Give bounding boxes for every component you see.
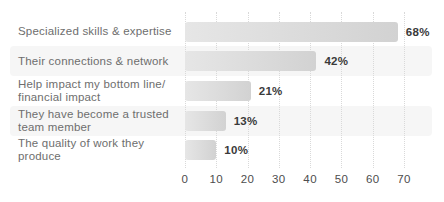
x-axis-tick-label: 10 [201,173,231,185]
value-label: 42% [324,51,348,71]
x-axis-tick-label: 30 [264,173,294,185]
value-label: 21% [259,81,283,101]
bar-chart: 010203040506070Specialized skills & expe… [0,0,444,202]
category-label: Help impact my bottom line/ financial im… [18,76,184,106]
value-label: 68% [406,22,430,42]
value-label: 10% [224,140,248,160]
category-label: Their connections & network [18,46,184,76]
x-axis-tick-label: 70 [389,173,419,185]
x-axis-tick-label: 40 [295,173,325,185]
bar [185,22,398,42]
category-label: Specialized skills & expertise [18,17,184,47]
value-label: 13% [234,111,258,131]
x-axis-tick-label: 60 [358,173,388,185]
category-label: They have become a trusted team member [18,106,184,136]
x-axis-tick-label: 0 [170,173,200,185]
x-axis-tick-label: 50 [326,173,356,185]
category-label: The quality of work they produce [18,135,184,165]
bar [185,81,251,101]
bar [185,111,226,131]
bar [185,51,316,71]
x-axis-tick-label: 20 [233,173,263,185]
bar [185,140,216,160]
